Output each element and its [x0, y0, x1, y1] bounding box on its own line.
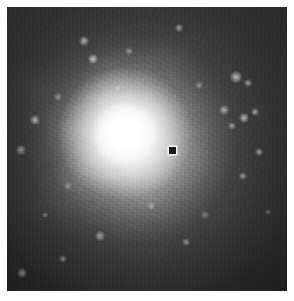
figure-container: [0, 0, 294, 301]
galaxy-core: [91, 101, 158, 166]
astronomical-image-field[interactable]: [7, 7, 287, 291]
position-marker[interactable]: [169, 147, 176, 154]
